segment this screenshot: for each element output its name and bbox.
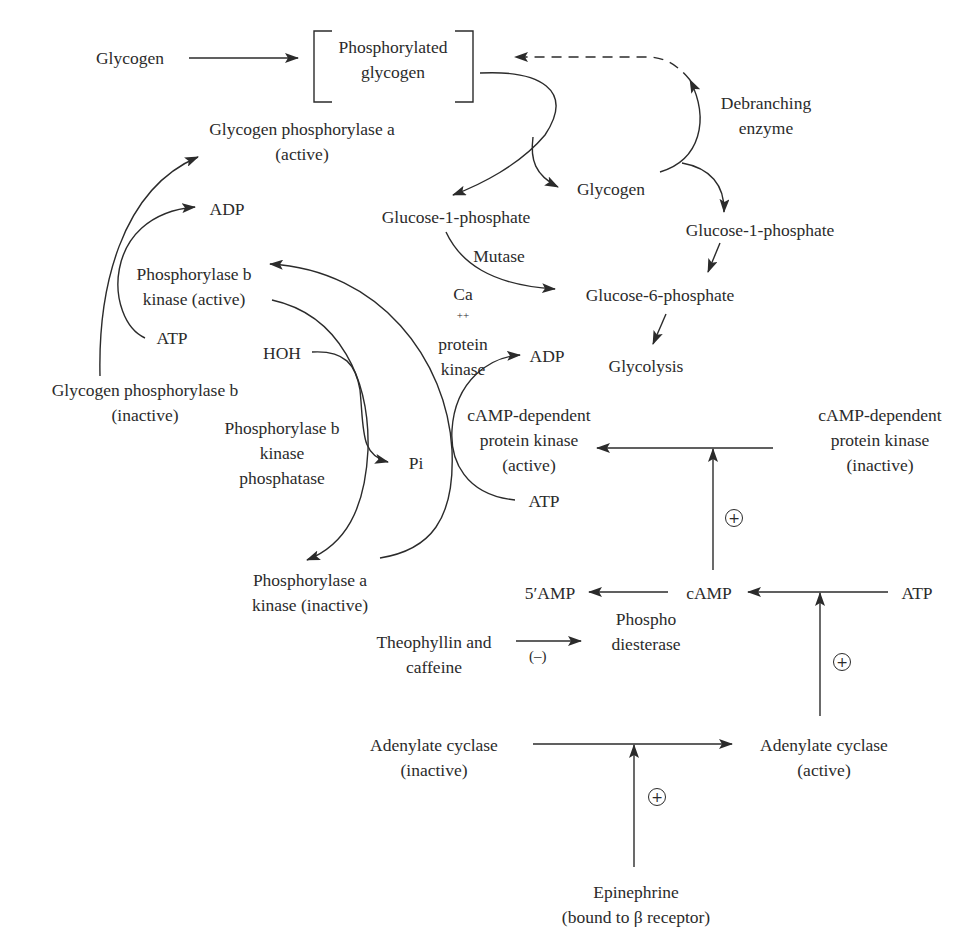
label-atp-left: ATP: [156, 326, 187, 351]
label-atp-right: ATP: [901, 581, 932, 606]
label-camp-pk-inactive: cAMP-dependent protein kinase (inactive): [818, 403, 941, 478]
stimulation-plus-icon: +: [725, 509, 743, 527]
label-phosphorylase-a-kinase-inactive: Phosphorylase a kinase (inactive): [252, 568, 368, 618]
label-glucose-6-phosphate: Glucose-6-phosphate: [586, 283, 735, 308]
stimulation-plus-icon: +: [833, 653, 851, 671]
label-phosphorylase-b-kinase-active: Phosphorylase b kinase (active): [136, 262, 251, 312]
label-mutase: Mutase: [473, 244, 525, 269]
label-glucose-1-phosphate-right: Glucose-1-phosphate: [686, 218, 835, 243]
label-phosphorylated-glycogen: Phosphorylated glycogen: [339, 35, 448, 85]
bracket-left: [314, 31, 332, 102]
label-adp-mid: ADP: [529, 344, 564, 369]
label-glycogen-phosphorylase-a: Glycogen phosphorylase a (active): [209, 117, 395, 167]
inhibition-mark: (–): [529, 648, 547, 665]
label-camp: cAMP: [686, 581, 732, 606]
label-glucose-1-phosphate-left: Glucose-1-phosphate: [382, 205, 531, 230]
label-pi: Pi: [409, 451, 424, 476]
label-camp-pk-active: cAMP-dependent protein kinase (active): [467, 403, 590, 478]
arrow-to-glucose-1-phosphate-right: [682, 163, 724, 212]
label-phosphodiesterase: Phospho diesterase: [612, 607, 681, 657]
arrow-g6p-to-glycolysis: [653, 314, 666, 344]
label-phosphorylase-b-kinase-phosphatase: Phosphorylase b kinase phosphatase: [224, 416, 339, 491]
label-glycogen-top: Glycogen: [96, 46, 164, 71]
label-epinephrine: Epinephrine (bound to β receptor): [562, 880, 710, 930]
label-glycogen-phosphorylase-b: Glycogen phosphorylase b (inactive): [52, 378, 239, 428]
label-ca-protein-kinase: Ca++ protein kinase: [438, 282, 488, 382]
label-adenylate-cyclase-inactive: Adenylate cyclase (inactive): [370, 733, 498, 783]
arrow-g1p-to-g6p: [708, 243, 720, 272]
label-debranching-enzyme: Debranching enzyme: [721, 91, 811, 141]
label-glycogen-mid: Glycogen: [577, 177, 645, 202]
debranching-curve: [660, 80, 700, 172]
label-theophyllin-caffeine: Theophyllin and caffeine: [376, 630, 491, 680]
arrow-to-glucose-1-phosphate-left: [453, 73, 556, 195]
stimulation-plus-icon: +: [648, 788, 666, 806]
label-adenylate-cyclase-active: Adenylate cyclase (active): [760, 733, 888, 783]
label-hoh: HOH: [263, 341, 301, 366]
label-glycolysis: Glycolysis: [609, 354, 684, 379]
label-adp-left: ADP: [209, 197, 244, 222]
dashed-return-arrow: [515, 57, 690, 80]
bracket-right: [455, 31, 473, 102]
label-5amp: 5′AMP: [525, 581, 576, 606]
label-atp-mid: ATP: [528, 489, 559, 514]
